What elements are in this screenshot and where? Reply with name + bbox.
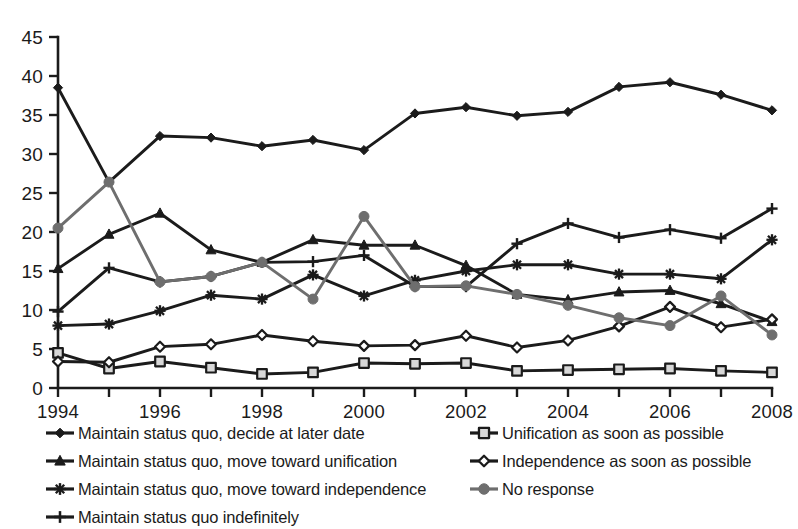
- data-point-square-open: [308, 368, 318, 378]
- data-point-diamond-filled: [614, 82, 623, 91]
- data-point-diamond-filled: [206, 133, 215, 142]
- legend-item[interactable]: No response: [468, 476, 798, 502]
- data-point-asterisk: [511, 259, 522, 270]
- data-point-asterisk: [256, 293, 267, 304]
- data-point-diamond-open: [665, 302, 675, 312]
- series-6: [53, 177, 777, 340]
- data-point-diamond-filled: [461, 103, 470, 112]
- data-point-circle-filled: [410, 282, 420, 292]
- legend-item[interactable]: Maintain status quo, move toward indepen…: [44, 476, 464, 502]
- x-axis-tick-label: 1994: [37, 401, 79, 418]
- data-point-circle-filled: [359, 211, 369, 221]
- data-point-asterisk: [358, 290, 369, 301]
- data-point-square-open: [563, 365, 573, 375]
- data-point-square-open: [614, 364, 624, 374]
- legend-marker-asterisk: [44, 479, 76, 499]
- y-axis-tick-label: 35: [21, 105, 43, 126]
- data-point-diamond-open: [206, 339, 216, 349]
- series-4: [53, 348, 777, 379]
- x-axis-tick-label: 1996: [139, 401, 181, 418]
- y-axis-labels: 051015202530354045: [21, 27, 43, 399]
- data-point-circle-filled: [767, 330, 777, 340]
- series-group: [52, 78, 777, 379]
- data-point-square-open: [206, 363, 216, 373]
- data-point-asterisk: [562, 259, 573, 270]
- data-point-circle-filled: [665, 321, 675, 331]
- data-point-diamond-open: [512, 342, 522, 352]
- data-point-square-open: [767, 368, 777, 378]
- data-point-square-open: [257, 369, 267, 379]
- data-point-square-open: [716, 366, 726, 376]
- data-point-circle-filled: [206, 271, 216, 281]
- data-point-asterisk: [766, 234, 777, 245]
- x-axis-tick-label: 2008: [751, 401, 793, 418]
- data-point-square-open: [461, 358, 471, 368]
- x-axis-labels: 19941996199820002002200420062008: [37, 401, 793, 418]
- legend-item-label: Maintain status quo, decide at later dat…: [78, 423, 364, 443]
- y-axis-tick-label: 15: [21, 261, 43, 282]
- legend-item[interactable]: Maintain status quo, move toward unifica…: [44, 448, 464, 474]
- data-point-asterisk: [154, 305, 165, 316]
- legend-item-label: Independence as soon as possible: [502, 451, 751, 471]
- data-point-circle-filled: [461, 281, 471, 291]
- data-point-asterisk: [103, 318, 114, 329]
- y-axis-tick-label: 0: [32, 378, 43, 399]
- legend-item[interactable]: Independence as soon as possible: [468, 448, 798, 474]
- data-point-square-open: [155, 357, 165, 367]
- data-point-circle-filled: [479, 484, 490, 495]
- data-point-plus: [54, 511, 66, 523]
- data-point-diamond-filled: [55, 428, 65, 438]
- data-point-circle-filled: [563, 300, 573, 310]
- data-point-diamond-open: [461, 331, 471, 341]
- series-3: [52, 203, 777, 317]
- data-point-diamond-open: [563, 335, 573, 345]
- x-axis-tick-label: 2004: [547, 401, 589, 418]
- data-point-asterisk: [307, 269, 318, 280]
- data-point-asterisk: [205, 290, 216, 301]
- legend-marker-triangle-filled: [44, 451, 76, 471]
- y-axis-tick-label: 30: [21, 144, 43, 165]
- y-axis-tick-label: 5: [32, 339, 43, 360]
- legend-item[interactable]: Maintain status quo, decide at later dat…: [44, 420, 464, 446]
- y-axis-tick-label: 10: [21, 300, 43, 321]
- data-point-circle-filled: [104, 177, 114, 187]
- data-point-circle-filled: [53, 223, 63, 233]
- data-point-asterisk: [613, 269, 624, 280]
- data-point-asterisk: [54, 483, 66, 495]
- data-point-circle-filled: [308, 294, 318, 304]
- data-point-asterisk: [664, 269, 675, 280]
- data-point-diamond-open: [716, 322, 726, 332]
- legend-item[interactable]: Unification as soon as possible: [468, 420, 798, 446]
- legend-item-label: Maintain status quo, move toward unifica…: [78, 451, 397, 471]
- legend-marker-diamond-filled: [44, 423, 76, 443]
- data-point-circle-filled: [257, 257, 267, 267]
- legend-marker-plus: [44, 507, 76, 527]
- y-axis-tick-label: 40: [21, 66, 43, 87]
- data-point-circle-filled: [512, 289, 522, 299]
- y-axis-tick-label: 25: [21, 183, 43, 204]
- data-point-diamond-filled: [767, 106, 776, 115]
- data-point-diamond-open: [155, 342, 165, 352]
- legend-item-label: No response: [502, 479, 594, 499]
- legend-item-label: Maintain status quo indefinitely: [78, 507, 299, 527]
- data-point-square-open: [410, 359, 420, 369]
- data-point-asterisk: [460, 265, 471, 276]
- data-point-diamond-filled: [257, 142, 266, 151]
- legend-item-label: Maintain status quo, move toward indepen…: [78, 479, 426, 499]
- line-chart: 051015202530354045 199419961998200020022…: [0, 0, 798, 418]
- data-point-asterisk: [715, 273, 726, 284]
- data-point-asterisk: [52, 320, 63, 331]
- chart-page: 051015202530354045 199419961998200020022…: [0, 0, 798, 529]
- x-axis-tick-label: 2002: [445, 401, 487, 418]
- data-point-diamond-filled: [512, 111, 521, 120]
- data-point-square-open: [479, 428, 489, 438]
- y-axis-tick-label: 20: [21, 222, 43, 243]
- legend-item[interactable]: Maintain status quo indefinitely: [44, 504, 464, 529]
- data-point-diamond-open: [308, 336, 318, 346]
- x-axis-tick-label: 2000: [343, 401, 385, 418]
- data-point-diamond-open: [257, 330, 267, 340]
- data-point-circle-filled: [716, 291, 726, 301]
- data-point-plus: [307, 256, 318, 267]
- legend-marker-circle-filled: [468, 479, 500, 499]
- series-0: [53, 78, 776, 187]
